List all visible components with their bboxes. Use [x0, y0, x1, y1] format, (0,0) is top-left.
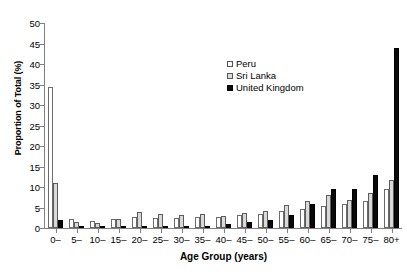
x-axis-tick-mark	[287, 229, 288, 233]
bar-united-kingdom	[373, 175, 378, 228]
x-axis-title: Age Group (years)	[45, 251, 402, 262]
x-axis-tick-label: 70–	[342, 234, 358, 245]
plot-area	[45, 23, 402, 228]
x-axis-tick-label: 45–	[237, 234, 253, 245]
x-axis-tick-mark	[161, 229, 162, 233]
bar-united-kingdom	[268, 220, 273, 228]
bar-group	[192, 23, 213, 228]
x-axis-tick-mark	[329, 229, 330, 233]
bar-group	[171, 23, 192, 228]
bar-united-kingdom	[58, 220, 63, 228]
bar-group	[360, 23, 381, 228]
x-axis-tick-mark	[245, 229, 246, 233]
x-axis-tick-label: 55–	[279, 234, 295, 245]
bar-group	[213, 23, 234, 228]
bar-group	[234, 23, 255, 228]
x-axis-tick-mark	[371, 229, 372, 233]
x-axis-tick-label: 65–	[321, 234, 337, 245]
bar-group	[318, 23, 339, 228]
bar-group	[339, 23, 360, 228]
x-axis-tick-label: 30–	[174, 234, 190, 245]
bar-united-kingdom	[121, 226, 126, 228]
legend-label: Peru	[236, 59, 256, 69]
x-axis-tick-label: 5–	[71, 234, 82, 245]
legend-item-united-kingdom: United Kingdom	[227, 82, 304, 94]
x-axis-tick-mark	[98, 229, 99, 233]
bar-group	[276, 23, 297, 228]
y-axis-tick-mark	[39, 44, 44, 45]
bar-group	[129, 23, 150, 228]
legend-item-peru: Peru	[227, 58, 304, 70]
bar-group	[150, 23, 171, 228]
y-axis-tick-mark	[39, 167, 44, 168]
bar-group	[108, 23, 129, 228]
legend-swatch-icon	[227, 85, 233, 91]
x-axis-tick-label: 50–	[258, 234, 274, 245]
x-axis-tick-label: 15–	[111, 234, 127, 245]
chart-legend: PeruSri LankaUnited Kingdom	[227, 58, 304, 94]
y-axis-tick-mark	[39, 85, 44, 86]
x-axis-tick-mark	[350, 229, 351, 233]
bar-united-kingdom	[100, 226, 105, 228]
bar-group	[381, 23, 402, 228]
y-axis-tick-mark	[39, 126, 44, 127]
x-axis-tick-mark	[308, 229, 309, 233]
x-axis-tick-label: 0–	[50, 234, 61, 245]
x-axis-tick-label: 10–	[90, 234, 106, 245]
legend-label: Sri Lanka	[236, 71, 276, 81]
y-axis-tick-mark	[39, 64, 44, 65]
x-axis-tick-mark	[224, 229, 225, 233]
y-axis-tick-mark	[39, 187, 44, 188]
x-axis-tick-label: 25–	[153, 234, 169, 245]
bar-group	[45, 23, 66, 228]
x-axis-tick-mark	[266, 229, 267, 233]
bar-united-kingdom	[142, 226, 147, 228]
x-axis-tick-label: 35–	[195, 234, 211, 245]
bar-group	[297, 23, 318, 228]
x-axis-tick-mark	[140, 229, 141, 233]
x-axis-tick-label: 60–	[300, 234, 316, 245]
x-axis-tick-mark	[56, 229, 57, 233]
y-axis-tick-mark	[39, 23, 44, 24]
bar-united-kingdom	[352, 189, 357, 228]
bar-united-kingdom	[79, 226, 84, 228]
x-axis-tick-mark	[392, 229, 393, 233]
x-axis-tick-label: 75–	[363, 234, 379, 245]
legend-swatch-icon	[227, 61, 233, 67]
y-axis-tick-mark	[39, 105, 44, 106]
legend-item-sri-lanka: Sri Lanka	[227, 70, 304, 82]
bar-united-kingdom	[289, 215, 294, 228]
y-axis-tick-mark	[39, 146, 44, 147]
x-axis-tick-label: 80+	[383, 234, 399, 245]
x-axis-tick-mark	[203, 229, 204, 233]
bar-group	[255, 23, 276, 228]
bar-chart-figure: Proportion of Total (%) 0510152025303540…	[0, 0, 407, 279]
bar-united-kingdom	[184, 226, 189, 228]
x-axis-tick-label: 40–	[216, 234, 232, 245]
bar-united-kingdom	[205, 226, 210, 228]
bar-united-kingdom	[394, 48, 399, 228]
x-axis-tick-mark	[77, 229, 78, 233]
y-axis-tick-labels: 05101520253035404550	[18, 23, 40, 228]
x-axis-tick-label: 20–	[132, 234, 148, 245]
bar-united-kingdom	[310, 204, 315, 228]
legend-swatch-icon	[227, 73, 233, 79]
bar-united-kingdom	[331, 189, 336, 228]
y-axis-tick-mark	[39, 208, 44, 209]
y-axis-tick-mark	[39, 228, 44, 229]
x-axis-tick-mark	[119, 229, 120, 233]
x-axis-tick-mark	[182, 229, 183, 233]
bar-group	[66, 23, 87, 228]
legend-label: United Kingdom	[236, 83, 304, 93]
bar-united-kingdom	[247, 222, 252, 228]
bar-united-kingdom	[226, 224, 231, 228]
bar-group	[87, 23, 108, 228]
bar-united-kingdom	[163, 226, 168, 228]
